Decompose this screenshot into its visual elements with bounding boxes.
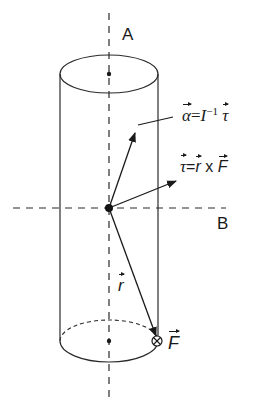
tau-equation: τ=r x F [180, 158, 227, 175]
f-symbol-in-tau: F [218, 159, 228, 175]
r-symbol: r [118, 277, 124, 294]
force-into-page-icon [152, 336, 162, 346]
axis-b-label: B [217, 215, 228, 232]
top-center-dot [107, 72, 111, 76]
bottom-center-dot [107, 339, 111, 343]
alpha-equation: α=I−1 τ [182, 106, 228, 124]
f-symbol: F [168, 334, 179, 352]
alpha-equals: = [191, 106, 201, 125]
tau-equals: = [186, 158, 195, 175]
axis-a-label: A [122, 26, 133, 43]
alpha-leader-line [138, 117, 173, 125]
force-label: F [168, 334, 179, 352]
r-vector-arrow [109, 208, 156, 336]
cross-operator: x [205, 158, 213, 175]
diagram-canvas [0, 0, 278, 411]
r-symbol-in-tau: r [195, 159, 200, 175]
tau-symbol: τ [180, 158, 186, 175]
alpha-vector-arrow [109, 133, 135, 208]
tau-symbol-in-alpha: τ [222, 107, 228, 124]
alpha-symbol: α [182, 107, 191, 124]
r-label: r [118, 277, 124, 294]
inertia-exponent: −1 [206, 105, 218, 117]
tau-vector-arrow [109, 181, 176, 208]
